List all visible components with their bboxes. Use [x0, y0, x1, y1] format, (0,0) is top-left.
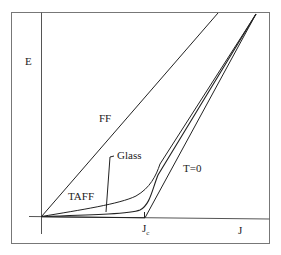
ff-label: FF: [99, 112, 111, 124]
jc-label: Jc: [142, 222, 149, 237]
glass-label: Glass: [117, 149, 141, 161]
t0-curve: [42, 14, 257, 218]
figure-frame: [12, 13, 270, 244]
glass-curve: [42, 14, 257, 217]
x-axis-label: J: [238, 224, 243, 236]
e-j-characteristics-diagram: E FF Glass TAFF T=0 Jc J: [0, 0, 281, 255]
taff-curve: [42, 14, 257, 217]
taff-label: TAFF: [68, 190, 94, 202]
y-axis-label: E: [25, 55, 32, 67]
t0-label: T=0: [183, 162, 202, 174]
jc-label-sub: c: [146, 229, 149, 237]
